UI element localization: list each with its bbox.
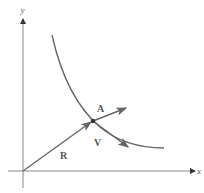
trajectory-curve	[52, 35, 164, 148]
point-marker	[91, 119, 95, 123]
x-axis-label: x	[196, 166, 201, 176]
position-vector-label: R	[60, 150, 68, 161]
position-vector-arrow	[23, 122, 91, 171]
y-axis-label: y	[20, 5, 25, 15]
vector-diagram: y x R A V	[0, 0, 204, 193]
velocity-vector-label: V	[94, 137, 102, 148]
acceleration-vector-label: A	[97, 103, 105, 114]
